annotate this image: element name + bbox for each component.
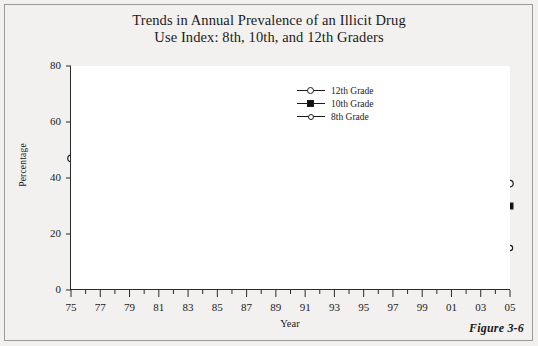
legend-label-8th-grade: 8th Grade: [331, 112, 369, 122]
x-axis-tick-label: 87: [235, 301, 259, 313]
x-axis-tick-label: 89: [264, 301, 288, 313]
y-axis-tick-label: 40: [35, 171, 61, 183]
x-axis-tick-label: 79: [118, 301, 142, 313]
legend-marker-square-filled-icon: [297, 98, 325, 110]
y-axis-tick-label: 60: [35, 115, 61, 127]
plot-axes-frame: [70, 66, 510, 290]
x-axis-tick-label: 91: [293, 301, 317, 313]
chart-legend: 12th Grade 10th Grade 8th Grade: [297, 84, 373, 123]
legend-marker-circle-open-icon: [297, 85, 325, 97]
x-axis-tick-label: 83: [176, 301, 200, 313]
x-axis-tick-label: 97: [381, 301, 405, 313]
y-axis-tick-label: 20: [35, 227, 61, 239]
x-axis-tick-label: 05: [498, 301, 522, 313]
x-axis-tick-label: 81: [147, 301, 171, 313]
x-axis-tick-label: 03: [469, 301, 493, 313]
legend-item-12th-grade: 12th Grade: [297, 84, 373, 97]
x-axis-label: Year: [240, 318, 340, 329]
legend-item-8th-grade: 8th Grade: [297, 110, 373, 123]
legend-label-12th-grade: 12th Grade: [331, 86, 373, 96]
x-axis-tick-label: 75: [59, 301, 83, 313]
y-axis-tick-label: 80: [35, 59, 61, 71]
x-axis-tick-label: 85: [205, 301, 229, 313]
x-axis-tick-label: 93: [322, 301, 346, 313]
y-axis-label: Percentage: [18, 125, 28, 205]
figure-caption: Figure 3-6: [469, 321, 524, 336]
y-axis-tick-label: 0: [35, 283, 61, 295]
chart-area: Percentage Year 806040200 75777981838587…: [0, 0, 538, 346]
legend-marker-circle-small-icon: [297, 111, 325, 123]
figure-page: Trends in Annual Prevalence of an Illici…: [0, 0, 538, 346]
legend-label-10th-grade: 10th Grade: [331, 99, 373, 109]
legend-item-10th-grade: 10th Grade: [297, 97, 373, 110]
x-axis-tick-label: 01: [439, 301, 463, 313]
x-axis-tick-label: 99: [410, 301, 434, 313]
x-axis-tick-label: 95: [352, 301, 376, 313]
x-axis-tick-label: 77: [88, 301, 112, 313]
